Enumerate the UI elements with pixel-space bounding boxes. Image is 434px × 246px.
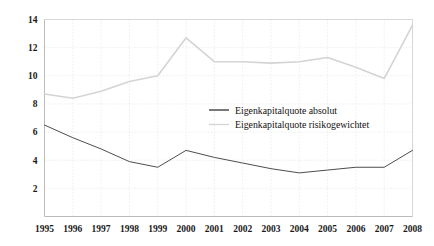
x-tick-label-2000: 2000 (177, 224, 196, 234)
x-tick-label-1996: 1996 (63, 224, 82, 234)
x-tick-label-2008: 2008 (403, 224, 422, 234)
x-tick-label-2006: 2006 (346, 224, 365, 234)
x-tick-label-1995: 1995 (35, 224, 54, 234)
x-tick-label-2007: 2007 (375, 224, 394, 234)
y-tick-label-4: 4 (33, 156, 38, 166)
x-tick-label-2001: 2001 (205, 224, 224, 234)
legend-label-absolut: Eigenkapitalquote absolut (235, 105, 337, 116)
y-tick-label-2: 2 (33, 184, 38, 194)
x-tick-label-1999: 1999 (148, 224, 167, 234)
y-tick-label-10: 10 (28, 71, 38, 81)
y-tick-label-6: 6 (33, 127, 38, 137)
y-tick-label-8: 8 (33, 99, 38, 109)
x-tick-label-2004: 2004 (290, 224, 309, 234)
chart-container: 2468101214 19951996199719981999200020012… (0, 0, 434, 246)
y-tick-label-12: 12 (28, 43, 38, 53)
x-tick-label-2002: 2002 (233, 224, 252, 234)
x-tick-label-2005: 2005 (318, 224, 337, 234)
x-tick-label-1998: 1998 (120, 224, 139, 234)
x-tick-label-2003: 2003 (261, 224, 280, 234)
y-tick-label-14: 14 (28, 15, 38, 25)
line-chart: 2468101214 19951996199719981999200020012… (0, 0, 434, 246)
legend-label-risikogewichtet: Eigenkapitalquote risikogewichtet (235, 119, 369, 130)
x-tick-label-1997: 1997 (92, 224, 111, 234)
